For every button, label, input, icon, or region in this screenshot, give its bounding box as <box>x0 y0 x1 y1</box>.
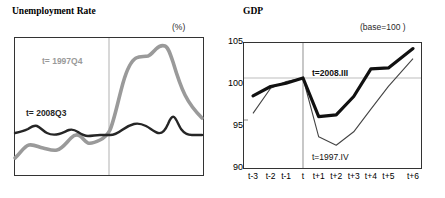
x-tick-t+5: t+5 <box>376 171 400 181</box>
gdp-plot <box>222 0 445 198</box>
unemployment-chart-panel: Unemployment Rate (%) t= 1997Q4 t= 2008Q… <box>0 0 222 198</box>
series-label-2008iii: t=2008.III <box>312 68 348 78</box>
series-label-1997q4: t= 1997Q4 <box>42 56 82 66</box>
series-label-1997iv: t=1997.IV <box>312 152 349 162</box>
unemployment-plot <box>0 0 222 198</box>
gdp-chart-panel: GDP (base=100 ) 105 100 95 90 t=2008.III… <box>222 0 445 198</box>
series-label-2008q3: t= 2008Q3 <box>26 108 66 118</box>
x-tick-t+6: t+6 <box>401 171 425 181</box>
